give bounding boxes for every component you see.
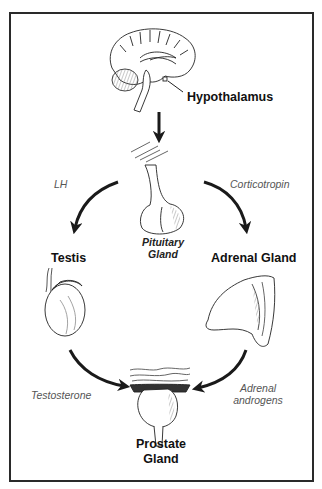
edge-label-lh: LH <box>54 178 67 190</box>
node-label-pituitary-line1: Pituitary <box>138 236 188 248</box>
testis-icon <box>45 268 85 336</box>
edge-label-corticotropin: Corticotropin <box>230 178 290 190</box>
adrenal-gland-icon <box>206 276 275 347</box>
brain-icon <box>110 29 195 112</box>
pituitary-icon <box>131 142 184 234</box>
node-label-testis: Testis <box>51 251 86 265</box>
arrow-pituitary-to-testis <box>75 182 118 228</box>
node-label-prostate-line1: Prostate <box>131 437 191 452</box>
edge-label-testosterone: Testosterone <box>31 389 91 401</box>
node-label-prostate: Prostate Gland <box>131 437 191 467</box>
prostate-icon <box>130 368 190 446</box>
node-label-adrenal: Adrenal Gland <box>211 251 296 265</box>
edge-label-adrenal-androgens-line2: androgens <box>228 394 288 406</box>
node-label-pituitary-line2: Gland <box>138 248 188 260</box>
node-label-pituitary: Pituitary Gland <box>138 236 188 260</box>
arrow-testis-to-prostate <box>70 350 124 386</box>
node-label-prostate-line2: Gland <box>131 452 191 467</box>
edge-label-adrenal-androgens: Adrenal androgens <box>228 382 288 406</box>
edge-label-adrenal-androgens-line1: Adrenal <box>228 382 288 394</box>
node-label-hypothalamus: Hypothalamus <box>187 90 273 104</box>
